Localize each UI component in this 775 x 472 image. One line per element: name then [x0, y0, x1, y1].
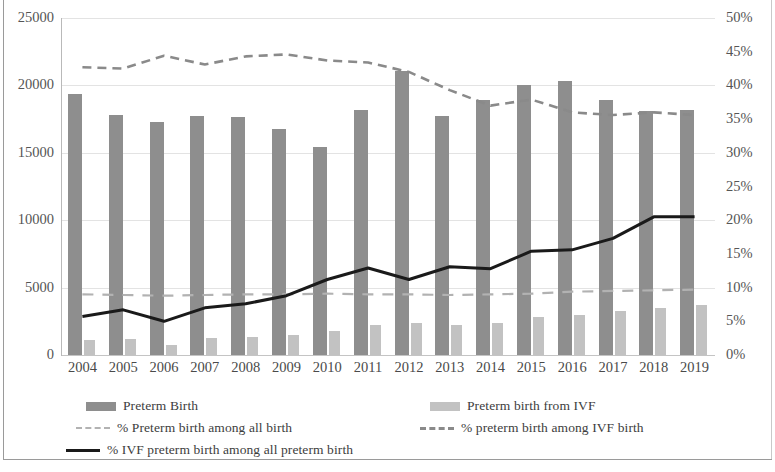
x-axis-line — [62, 355, 715, 356]
line-series--ivf-preterm-birth-among-all-preterm-birth — [82, 217, 694, 321]
legend-row-2: % Preterm birth among all birth % preter… — [62, 420, 762, 442]
legend-label: Preterm Birth — [123, 398, 198, 414]
y-axis-left-tick-label: 10000 — [8, 212, 54, 227]
frame-border-right — [771, 0, 772, 460]
legend-swatch-line-light-dashed-icon — [76, 427, 110, 429]
legend-row-3: % IVF preterm birth among all preterm bi… — [62, 442, 762, 464]
legend-swatch-bar-dark-icon — [86, 402, 116, 411]
legend-swatch-line-gray-dashed-icon — [420, 427, 454, 430]
x-axis-tick-label: 2017 — [593, 360, 634, 375]
x-axis-tick-label: 2018 — [633, 360, 674, 375]
line-series--preterm-birth-among-ivf-birth — [82, 54, 694, 115]
legend-item-pct-preterm-among-ivf-birth[interactable]: % preterm birth among IVF birth — [420, 420, 644, 436]
x-axis-tick-label: 2005 — [103, 360, 144, 375]
x-axis-tick-label: 2004 — [62, 360, 103, 375]
x-axis-tick-label: 2007 — [184, 360, 225, 375]
y-axis-right-tick-label: 5% — [726, 313, 745, 328]
y-axis-left-tick-label: 25000 — [8, 10, 54, 25]
y-axis-right-tick-label: 45% — [726, 44, 753, 59]
legend-swatch-bar-light-icon — [430, 402, 460, 411]
y-axis-right-tick-label: 50% — [726, 10, 753, 25]
x-axis-tick-label: 2011 — [348, 360, 389, 375]
chart-legend: Preterm Birth Preterm birth from IVF % P… — [62, 398, 762, 464]
x-axis-tick-label: 2014 — [470, 360, 511, 375]
line-series--preterm-birth-among-all-birth — [82, 290, 694, 296]
chart-container: 0500010000150002000025000 0%5%10%15%20%2… — [0, 0, 775, 472]
legend-row-1: Preterm Birth Preterm birth from IVF — [62, 398, 762, 420]
x-axis-tick-label: 2019 — [674, 360, 715, 375]
y-axis-left-tick-label: 15000 — [8, 145, 54, 160]
y-axis-right-tick-label: 20% — [726, 212, 753, 227]
x-axis-tick-label: 2013 — [429, 360, 470, 375]
legend-label: % preterm birth among IVF birth — [461, 420, 644, 436]
x-axis-tick-label: 2006 — [144, 360, 185, 375]
x-axis-tick-label: 2015 — [511, 360, 552, 375]
legend-item-pct-preterm-among-all-birth[interactable]: % Preterm birth among all birth — [76, 420, 292, 436]
y-axis-left-tick-label: 0 — [8, 347, 54, 362]
y-axis-right-tick-label: 30% — [726, 145, 753, 160]
x-axis-tick-label: 2010 — [307, 360, 348, 375]
legend-label: % Preterm birth among all birth — [117, 420, 292, 436]
legend-label: % IVF preterm birth among all preterm bi… — [107, 442, 353, 458]
y-axis-right-tick-label: 0% — [726, 347, 745, 362]
frame-border-left — [3, 0, 4, 460]
x-axis-tick-label: 2009 — [266, 360, 307, 375]
y-axis-right-tick-label: 35% — [726, 111, 753, 126]
y-axis-left-tick-label: 20000 — [8, 77, 54, 92]
line-series-overlay — [62, 18, 715, 355]
x-axis-tick-label: 2008 — [225, 360, 266, 375]
y-axis-right-tick-label: 10% — [726, 280, 753, 295]
y-axis-left-tick-label: 5000 — [8, 280, 54, 295]
y-axis-right-tick-label: 15% — [726, 246, 753, 261]
legend-item-pct-ivf-preterm-among-all-preterm[interactable]: % IVF preterm birth among all preterm bi… — [66, 442, 353, 458]
legend-item-preterm-birth[interactable]: Preterm Birth — [86, 398, 198, 414]
x-axis-tick-label: 2016 — [552, 360, 593, 375]
y-axis-right-tick-label: 25% — [726, 179, 753, 194]
legend-item-preterm-birth-from-ivf[interactable]: Preterm birth from IVF — [430, 398, 596, 414]
legend-label: Preterm birth from IVF — [467, 398, 596, 414]
x-axis-tick-label: 2012 — [389, 360, 430, 375]
y-axis-right-tick-label: 40% — [726, 77, 753, 92]
legend-swatch-line-black-solid-icon — [66, 449, 100, 452]
